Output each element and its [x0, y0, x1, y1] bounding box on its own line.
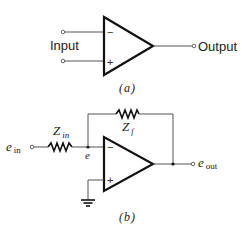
caption-b: (b) [119, 210, 136, 224]
minus-sign: − [107, 26, 113, 38]
ein-label: ein [6, 139, 21, 155]
op-amp-diagrams: Input − + Output (a) ein Zin e Zf [0, 0, 242, 234]
input-label: Input [50, 38, 79, 53]
zin-label: Zin [53, 123, 70, 140]
noninverting-input-terminal [61, 59, 65, 63]
minus-sign: − [107, 141, 113, 153]
eout-terminal [191, 162, 195, 166]
plus-sign: + [107, 56, 113, 68]
ein-terminal [30, 145, 34, 149]
eout-label: eout [198, 155, 218, 171]
plus-sign: + [107, 174, 113, 186]
diagram-b: ein Zin e Zf − + [6, 110, 218, 224]
output-junction-dot [171, 162, 174, 165]
feedback-wire-right [139, 114, 173, 164]
inverting-input-terminal [61, 30, 65, 34]
zin-resistor-icon [48, 143, 72, 151]
output-terminal [192, 44, 196, 48]
ground-icon [81, 200, 95, 206]
caption-a: (a) [119, 81, 136, 95]
output-label: Output [198, 39, 237, 54]
ground-wire [88, 180, 104, 200]
zf-resistor-icon [116, 110, 139, 118]
diagram-a: Input − + Output (a) [50, 17, 237, 95]
zf-label: Zf [122, 119, 135, 136]
node-e-label: e [85, 149, 90, 161]
